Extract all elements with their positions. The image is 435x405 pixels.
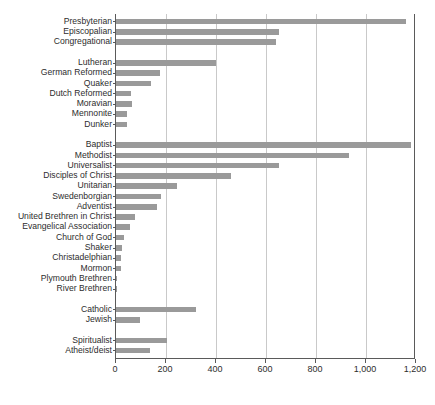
x-axis-tick-label: 400	[207, 364, 222, 375]
bar	[116, 245, 122, 251]
bar	[116, 122, 127, 128]
category-label: Baptist	[0, 140, 112, 149]
bar-chart: PresbyterianEpiscopalianCongregationalLu…	[0, 0, 435, 405]
bar	[116, 29, 279, 35]
bar	[116, 60, 216, 66]
bar	[116, 19, 406, 25]
category-label: Mormon	[0, 264, 112, 273]
x-axis-tick	[415, 359, 416, 363]
category-label: Christadelphian	[0, 253, 112, 262]
category-label: Presbyterian	[0, 17, 112, 26]
x-axis-tick	[115, 359, 116, 363]
category-label: Lutheran	[0, 58, 112, 67]
bar	[116, 307, 196, 313]
bar	[116, 39, 276, 45]
bar	[116, 101, 132, 107]
category-label: Spiritualist	[0, 336, 112, 345]
bar	[116, 348, 150, 354]
category-label: United Brethren in Christ	[0, 212, 112, 221]
value-axis: 02004006008001,0001,200	[0, 359, 435, 383]
x-axis-tick	[315, 359, 316, 363]
bar	[116, 276, 117, 282]
category-label: Dutch Reformed	[0, 89, 112, 98]
category-axis-labels: PresbyterianEpiscopalianCongregationalLu…	[0, 14, 112, 359]
x-axis-tick	[365, 359, 366, 363]
category-label: Methodist	[0, 151, 112, 160]
x-axis-tick-label: 0	[112, 364, 117, 375]
category-label: Moravian	[0, 99, 112, 108]
bars-container	[116, 14, 414, 358]
x-axis-tick	[215, 359, 216, 363]
bar	[116, 70, 160, 76]
bar	[116, 338, 167, 344]
category-label: Unitarian	[0, 181, 112, 190]
category-label: Adventist	[0, 202, 112, 211]
category-label: Atheist/deist	[0, 346, 112, 355]
x-axis-tick	[265, 359, 266, 363]
x-axis-tick-label: 1,200	[404, 364, 427, 375]
category-label: Jewish	[0, 315, 112, 324]
category-label: Evangelical Association	[0, 222, 112, 231]
category-label: Mennonite	[0, 109, 112, 118]
category-label: Dunker	[0, 120, 112, 129]
bar	[116, 81, 151, 87]
bar	[116, 286, 117, 292]
category-label: Quaker	[0, 79, 112, 88]
category-label: German Reformed	[0, 68, 112, 77]
bar	[116, 163, 279, 169]
bar	[116, 204, 157, 210]
plot-area	[115, 14, 415, 359]
category-label: Catholic	[0, 305, 112, 314]
x-axis-tick-label: 1,000	[354, 364, 377, 375]
category-label: Disciples of Christ	[0, 171, 112, 180]
bar	[116, 173, 231, 179]
bar	[116, 317, 140, 323]
bar	[116, 214, 135, 220]
x-axis-tick	[165, 359, 166, 363]
category-label: Swedenborgian	[0, 192, 112, 201]
category-label: Church of God	[0, 233, 112, 242]
bar	[116, 194, 161, 200]
bar	[116, 224, 130, 230]
bar	[116, 266, 121, 272]
bar	[116, 255, 121, 261]
x-axis-tick-label: 600	[257, 364, 272, 375]
bar	[116, 183, 177, 189]
category-label: Shaker	[0, 243, 112, 252]
x-axis-tick-label: 800	[307, 364, 322, 375]
category-label: Plymouth Brethren	[0, 274, 112, 283]
category-label: Congregational	[0, 37, 112, 46]
category-label: Episcopalian	[0, 27, 112, 36]
category-label: Universalist	[0, 161, 112, 170]
category-label: River Brethren	[0, 284, 112, 293]
x-axis-tick-label: 200	[157, 364, 172, 375]
bar	[116, 235, 124, 241]
bar	[116, 142, 411, 148]
bar	[116, 91, 131, 97]
bar	[116, 153, 349, 159]
bar	[116, 111, 127, 117]
